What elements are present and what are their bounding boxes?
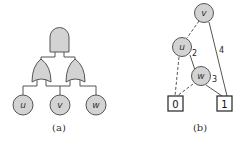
edge-label-v-1: 4 bbox=[219, 46, 224, 55]
terminal-0: 0 bbox=[168, 96, 183, 111]
leaf-label: w bbox=[92, 100, 100, 110]
bdd-node-w: w bbox=[192, 67, 211, 86]
edge-label-w-1: 3 bbox=[212, 75, 217, 84]
or-gate-icon bbox=[66, 59, 85, 82]
terminal-1: 1 bbox=[217, 96, 232, 111]
panel-a: u v w (a) bbox=[13, 28, 106, 134]
leaf-label: v bbox=[57, 100, 63, 110]
panel-b: 2 3 4 v u w 0 1 (b) bbox=[168, 4, 232, 134]
leaf-label: u bbox=[20, 100, 26, 110]
node-label: w bbox=[197, 71, 205, 81]
node-label: v bbox=[201, 8, 207, 18]
and-gate-icon bbox=[50, 28, 69, 53]
or-gate-icon bbox=[32, 59, 51, 82]
leaf-node-v: v bbox=[50, 95, 70, 115]
leaf-node-w: w bbox=[86, 95, 106, 115]
bdd-node-v: v bbox=[195, 4, 214, 23]
caption-a: (a) bbox=[52, 122, 66, 133]
caption-b: (b) bbox=[193, 122, 207, 133]
leaf-node-u: u bbox=[13, 95, 33, 115]
diagram-canvas: u v w (a) 2 3 4 bbox=[0, 0, 247, 145]
edge-label-u-w: 2 bbox=[192, 49, 197, 58]
terminal-label: 1 bbox=[221, 99, 227, 110]
terminal-label: 0 bbox=[172, 99, 178, 110]
bdd-node-u: u bbox=[173, 38, 192, 57]
node-label: u bbox=[179, 42, 185, 52]
